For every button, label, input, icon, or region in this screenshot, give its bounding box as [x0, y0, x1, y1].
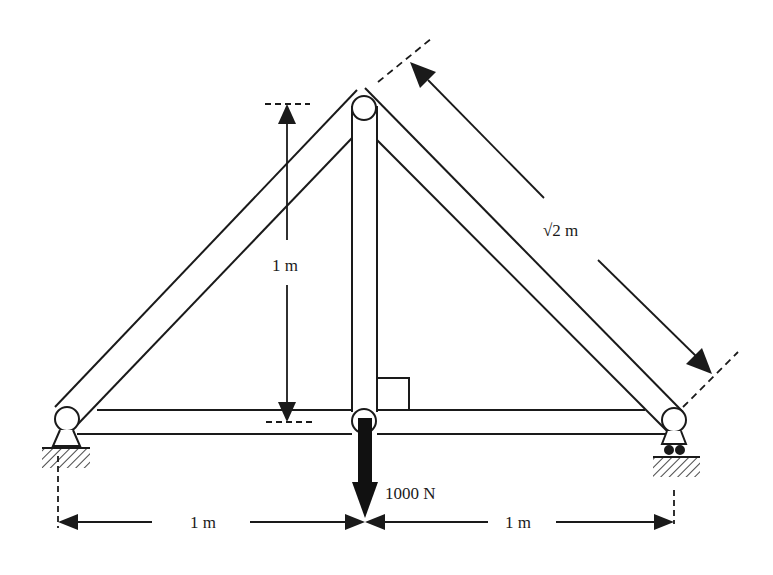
left-rafter — [55, 90, 357, 425]
right-span-label: 1 m — [505, 514, 531, 531]
left-span-label: 1 m — [190, 514, 216, 531]
roller-support — [653, 431, 700, 477]
right-support-joint — [662, 408, 686, 432]
left-support-joint — [55, 407, 79, 431]
load-arrow — [352, 418, 378, 518]
right-rafter — [365, 88, 683, 432]
load-label: 1000 N — [385, 485, 436, 502]
rafter-dimension-label: √2 m — [543, 222, 578, 239]
vertical-member — [352, 106, 377, 412]
apex-joint — [352, 96, 376, 120]
right-angle-marker — [377, 378, 409, 410]
pin-support — [42, 430, 90, 468]
height-dimension-label: 1 m — [272, 257, 298, 274]
